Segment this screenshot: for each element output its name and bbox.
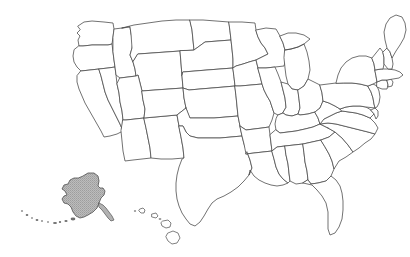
state-washington[interactable] [77, 21, 114, 46]
hawaii-island-oahu[interactable] [152, 213, 158, 218]
us-map-container: Blank map of the United States [0, 0, 410, 257]
hawaii-islet-niihau [134, 210, 136, 212]
state-texas[interactable] [176, 126, 252, 226]
aleutian-islet [59, 221, 61, 223]
state-alaska[interactable] [62, 173, 105, 218]
kodiak-island [71, 218, 76, 221]
state-kansas[interactable] [183, 86, 238, 118]
aleutian-islet [41, 220, 43, 222]
aleutian-islands [21, 210, 76, 224]
us-states-map [0, 0, 410, 257]
aleutian-islet [26, 214, 29, 216]
aleutian-islet [31, 217, 33, 219]
aleutian-islet [53, 222, 57, 224]
hawaii-island-big-island[interactable] [166, 231, 180, 244]
state-arkansas[interactable] [240, 126, 272, 154]
alaska-inset-group [21, 173, 114, 224]
hawaii-island-kauai[interactable] [139, 208, 145, 213]
state-oregon[interactable] [73, 44, 115, 71]
state-florida[interactable] [303, 176, 343, 235]
contiguous-states-group [73, 15, 406, 235]
aleutian-islet [21, 210, 23, 212]
state-massachusetts[interactable] [375, 69, 403, 82]
hawaii-islet-molokai [159, 218, 162, 220]
state-michigan[interactable] [280, 33, 310, 90]
state-new-york[interactable] [336, 56, 377, 86]
aleutian-islet [47, 221, 49, 222]
aleutian-islet [36, 219, 39, 221]
hawaii-island-maui[interactable] [161, 220, 171, 228]
alaska-panhandle[interactable] [99, 203, 114, 221]
hawaii-inset-group [134, 208, 180, 244]
aleutian-islet [64, 220, 67, 222]
